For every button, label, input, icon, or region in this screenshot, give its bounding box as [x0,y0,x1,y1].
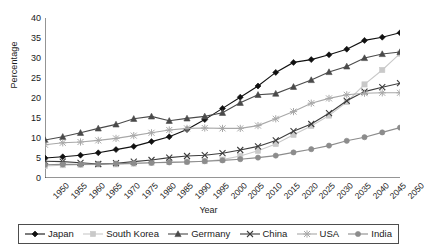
y-tick-label: 35 [31,34,41,43]
legend-marker-square-icon [83,229,103,239]
plot-svg [45,18,400,178]
legend-label: Japan [48,229,74,239]
legend-marker-triangle-icon [168,229,188,239]
legend-item-india[interactable]: India [348,229,392,239]
y-tick-label: 20 [31,94,41,103]
y-axis-label: Percentage [9,20,19,110]
legend-marker-diamond-icon [25,229,45,239]
y-tick-label: 30 [31,54,41,63]
legend-item-japan[interactable]: Japan [25,229,74,239]
legend-marker-circle-icon [348,229,368,239]
legend-label: India [371,229,392,239]
legend-marker-asterisk-icon [297,229,317,239]
plot-area: 0510152025303540 19501955196019651970197… [45,18,400,178]
x-tick-label: 1950 [49,184,68,203]
legend-label: South Korea [106,229,159,239]
chart-legend: JapanSouth KoreaGermanyChinaUSAIndia [18,224,399,244]
legend-item-germany[interactable]: Germany [168,229,230,239]
y-tick-label: 15 [31,114,41,123]
y-tick-label: 40 [31,14,41,23]
y-tick-label: 25 [31,74,41,83]
legend-label: China [263,229,288,239]
y-tick-label: 5 [36,154,41,163]
legend-item-china[interactable]: China [240,229,288,239]
x-axis-label: Year [0,205,417,215]
legend-label: Germany [191,229,230,239]
legend-item-usa[interactable]: USA [297,229,340,239]
legend-marker-cross-icon [240,229,260,239]
legend-label: USA [320,229,340,239]
legend-item-south-korea[interactable]: South Korea [83,229,159,239]
y-tick-label: 10 [31,134,41,143]
y-tick-label: 0 [36,174,41,183]
